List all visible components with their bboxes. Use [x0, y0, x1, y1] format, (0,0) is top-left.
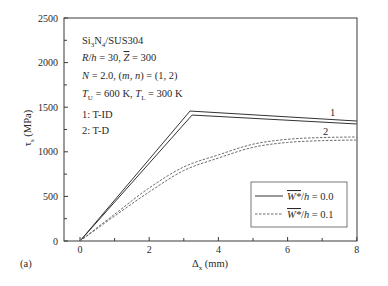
annotation-material: Si3N4/SUS304 [82, 35, 144, 49]
x-tick-label: 2 [147, 244, 152, 255]
parameter-annotations: Si3N4/SUS304 R/h = 30, Z = 300 N = 2.0, … [81, 35, 183, 136]
legend: W*/h = 0.0 W*/h = 0.1 [251, 182, 347, 227]
y-axis-label: τs (MPa) [22, 109, 36, 146]
y-tick-label: 1500 [38, 102, 58, 113]
annotation-curve2-key: 2: T-D [82, 125, 110, 136]
y-tick-label: 2500 [38, 13, 58, 24]
y-tick-label: 0 [53, 236, 58, 247]
annotation-curve1-key: 1: T-ID [82, 109, 113, 120]
annotation-params: N = 2.0, (m, n) = (1, 2) [81, 70, 178, 82]
panel-label: (a) [20, 258, 32, 270]
legend-box [251, 182, 347, 227]
annotation-geometry: R/h = 30, Z = 300 [81, 52, 156, 63]
annotation-temperatures: TU = 600 K, TL = 300 K [82, 88, 183, 102]
y-tick-label: 500 [43, 191, 58, 202]
x-tick-label: 6 [285, 244, 290, 255]
y-tick-label: 1000 [38, 146, 58, 157]
curve-label-2: 2 [323, 126, 328, 137]
x-tick-label: 8 [354, 244, 359, 255]
x-tick-label: 0 [78, 244, 83, 255]
y-tick-label: 2000 [38, 57, 58, 68]
legend-label-solid: W*/h = 0.0 [287, 191, 333, 202]
x-tick-label: 4 [216, 244, 221, 255]
chart: 0500100015002000250002468 Si3N4/SUS304 R… [0, 0, 388, 286]
legend-label-dashed: W*/h = 0.1 [287, 209, 333, 220]
x-axis-label: Δx (mm) [192, 258, 229, 272]
curve-label-1: 1 [330, 107, 335, 118]
